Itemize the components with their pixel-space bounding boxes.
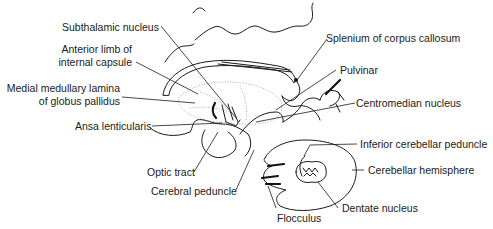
leader-inferior-peduncle xyxy=(304,144,357,156)
brain-anatomy-diagram: Subthalamic nucleus Anterior limb of int… xyxy=(0,0,493,229)
leader-optic-tract xyxy=(194,132,218,172)
leader-ansa xyxy=(152,123,222,126)
label-anterior-limb-line2: internal capsule xyxy=(58,56,132,68)
label-flocculus: Flocculus xyxy=(277,212,321,224)
label-anterior-limb-line1: Anterior limb of xyxy=(60,43,132,55)
label-centromedian-nucleus: Centromedian nucleus xyxy=(356,97,461,109)
leader-dentate xyxy=(318,182,338,208)
label-medial-medullary-line1: Medial medullary lamina xyxy=(2,82,120,94)
leader-pulvinar xyxy=(276,70,336,110)
label-splenium: Splenium of corpus callosum xyxy=(326,32,460,44)
leader-subthalamic xyxy=(161,26,236,118)
leader-flocculus xyxy=(268,186,276,208)
label-dentate-nucleus: Dentate nucleus xyxy=(342,202,418,214)
label-inferior-cerebellar-peduncle: Inferior cerebellar peduncle xyxy=(360,138,487,150)
label-subthalamic-nucleus: Subthalamic nucleus xyxy=(62,21,159,33)
label-cerebral-peduncle: Cerebral peduncle xyxy=(151,185,237,197)
label-medial-medullary-line2: of globus pallidus xyxy=(2,95,120,107)
label-ansa-lenticularis: Ansa lenticularis xyxy=(75,120,151,132)
leader-medial-lamina xyxy=(122,97,195,103)
label-cerebellar-hemisphere: Cerebellar hemisphere xyxy=(368,164,474,176)
cortex-outline xyxy=(193,3,313,40)
label-pulvinar: Pulvinar xyxy=(340,64,378,76)
leader-splenium xyxy=(297,39,327,80)
globus-pallidus-lamina xyxy=(213,103,216,118)
label-optic-tract: Optic tract xyxy=(147,166,195,178)
